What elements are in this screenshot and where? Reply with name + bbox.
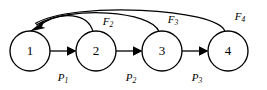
arc-f3-label-sub: 3 <box>173 18 178 27</box>
edge-p1-label: P1 <box>57 71 68 85</box>
arc-f4-label: F4 <box>234 10 246 24</box>
arc-f3-label: F3 <box>167 13 179 27</box>
node-3-label: 3 <box>159 43 166 58</box>
arc-f2-label-sub: 2 <box>109 20 113 29</box>
edge-p2-label-sub: 2 <box>132 76 136 85</box>
edge-p2-label: P2 <box>125 71 137 85</box>
node-2-label: 2 <box>93 43 100 58</box>
edge-p1-arrowhead <box>67 46 77 55</box>
feedback-arc-group <box>30 10 226 32</box>
edge-p3-arrowhead <box>199 46 209 55</box>
arc-f4-path <box>35 10 225 32</box>
diagram-canvas: 1 2 3 4 P1 P2 P3 F2 F3 <box>0 0 267 90</box>
node-1-label: 1 <box>27 43 34 58</box>
arc-f3-path <box>36 13 159 32</box>
arc-f4-label-sub: 4 <box>241 15 245 24</box>
forward-edge-group <box>50 46 209 55</box>
edge-p2-arrowhead <box>133 46 143 55</box>
edge-p3-label: P3 <box>191 71 203 85</box>
arc-f2-path <box>38 16 94 32</box>
edge-p3-label-sub: 3 <box>197 76 202 85</box>
edge-p1-label-sub: 1 <box>64 76 68 85</box>
node-4-label: 4 <box>225 43 232 58</box>
diagram-container: 1 2 3 4 P1 P2 P3 F2 F3 <box>0 0 267 90</box>
arc-f2-label: F2 <box>102 15 114 29</box>
